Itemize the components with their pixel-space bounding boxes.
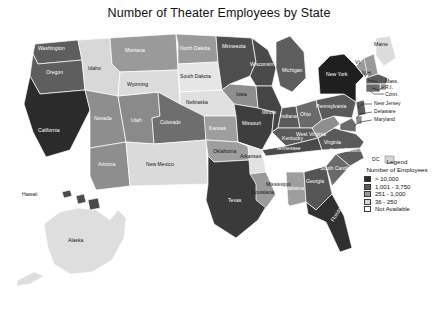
legend-subtitle: Number of Employees: [358, 166, 436, 173]
legend: Legend Number of Employees > 10,000 1,00…: [358, 158, 436, 214]
legend-swatch-36-250: [364, 199, 371, 205]
state-maine[interactable]: [376, 36, 396, 66]
state-south-dakota[interactable]: [178, 62, 222, 92]
legend-item-not-available[interactable]: Not Available: [364, 206, 436, 212]
state-connecticut[interactable]: [366, 84, 380, 92]
state-hawaii[interactable]: [62, 190, 72, 198]
state-north-dakota[interactable]: [176, 34, 218, 64]
legend-item-over-10000[interactable]: > 10,000: [364, 176, 436, 182]
legend-title: Legend: [358, 158, 436, 165]
legend-item-1001-3750[interactable]: 1,001 - 3,750: [364, 184, 436, 190]
state-arizona[interactable]: [90, 142, 130, 190]
state-maryland[interactable]: [340, 118, 356, 132]
state-minnesota[interactable]: [216, 36, 256, 90]
legend-label-251-1000: 251 - 1,000: [375, 191, 405, 197]
state-michigan[interactable]: [276, 36, 306, 92]
legend-item-251-1000[interactable]: 251 - 1,000: [364, 191, 436, 197]
legend-label-1001-3750: 1,001 - 3,750: [375, 184, 410, 190]
legend-label-36-250: 36 - 250: [375, 199, 397, 205]
state-rhode-island[interactable]: [380, 84, 386, 90]
state-montana[interactable]: [110, 34, 178, 72]
hawaii-island-3[interactable]: [88, 198, 100, 210]
legend-swatch-not-available: [364, 206, 371, 212]
chart-title: Number of Theater Employees by State: [0, 6, 438, 20]
state-alaska[interactable]: [44, 208, 126, 274]
legend-label-not-available: Not Available: [375, 206, 410, 212]
inset-states-group: [16, 190, 126, 286]
alaska-aleutians[interactable]: [16, 272, 44, 286]
legend-swatch-over-10000: [364, 176, 371, 182]
legend-swatch-251-1000: [364, 191, 371, 197]
legend-label-over-10000: > 10,000: [375, 176, 399, 182]
hawaii-island-2[interactable]: [76, 194, 86, 204]
legend-item-36-250[interactable]: 36 - 250: [364, 199, 436, 205]
state-alabama[interactable]: [286, 172, 306, 206]
state-new-mexico[interactable]: [126, 140, 208, 186]
state-kansas[interactable]: [204, 116, 238, 142]
theater-employees-choropleth-map: Number of Theater Employees by State: [0, 0, 438, 314]
legend-swatch-1001-3750: [364, 184, 371, 190]
